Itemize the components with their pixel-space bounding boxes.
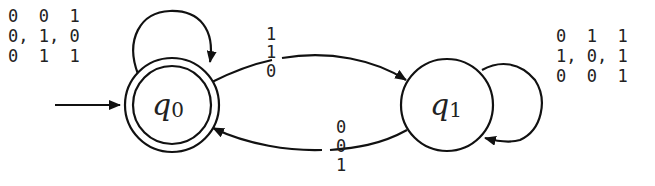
q1-to-q0-edge <box>213 128 322 150</box>
q0-to-q1-edge-part1 <box>212 60 272 82</box>
q0-self-loop-label: 0 0 1 0, 1, 0 0 1 1 <box>8 6 80 66</box>
label-row: 1 <box>336 155 346 175</box>
label-row: 0, 1, 0 <box>8 26 80 46</box>
label-row: 0 1 1 <box>556 26 628 46</box>
label-row: 1 <box>266 42 276 62</box>
label-row: 1 <box>266 24 276 44</box>
q1-self-loop-label: 0 1 1 1, 0, 1 0 0 1 <box>556 26 628 86</box>
label-row: 1, 0, 1 <box>556 46 628 66</box>
label-row: 0 0 1 <box>8 6 80 26</box>
automaton-diagram: q0 q1 0 0 1 0, 1, 0 0 1 1 0 1 1 1, 0, 1 … <box>0 0 655 186</box>
state-q1[interactable]: q1 <box>401 59 493 151</box>
label-row: 0 1 1 <box>8 46 80 66</box>
label-row: 0 0 1 <box>556 66 628 86</box>
q0-to-q1-edge <box>282 55 406 80</box>
q1-to-q0-label: 0 0 1 <box>336 117 346 175</box>
state-q0[interactable]: q0 <box>125 58 219 152</box>
label-row: 0 <box>266 61 276 81</box>
label-row: 0 <box>336 136 346 156</box>
q0-to-q1-label: 1 1 0 <box>266 24 276 81</box>
label-row: 0 <box>336 117 346 137</box>
